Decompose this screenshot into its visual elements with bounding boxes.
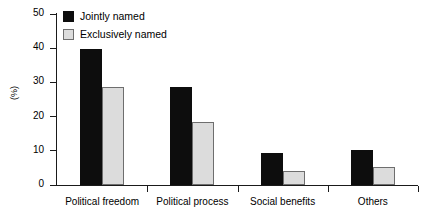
bar-jointly-2 <box>261 153 283 185</box>
y-axis-tick <box>50 48 56 49</box>
y-axis-tick-label: 0 <box>6 179 44 189</box>
bar-jointly-3 <box>351 150 373 185</box>
y-axis-tick-label: 10 <box>6 145 44 155</box>
x-axis-tick <box>238 186 239 192</box>
y-axis-label: (%) <box>9 85 19 101</box>
bar-jointly-0 <box>80 49 102 185</box>
y-axis-tick-label: 30 <box>6 76 44 86</box>
y-axis-tick <box>50 150 56 151</box>
y-axis-tick-label: 20 <box>6 111 44 121</box>
bar-exclusively-3 <box>373 167 395 185</box>
y-axis-tick <box>50 82 56 83</box>
y-axis-tick <box>50 185 56 186</box>
x-axis-category-label: Others <box>328 196 418 208</box>
y-axis-tick <box>50 116 56 117</box>
legend-label-jointly: Jointly named <box>80 11 145 22</box>
x-axis-tick <box>418 186 419 192</box>
x-axis-category-label: Social benefits <box>238 196 328 208</box>
legend-swatch-icon-exclusively <box>63 29 74 40</box>
x-axis-category-label: Political process <box>147 196 237 208</box>
chart-legend: Jointly named Exclusively named <box>63 9 167 45</box>
bar-exclusively-2 <box>283 171 305 185</box>
bar-jointly-1 <box>170 87 192 185</box>
x-axis-category-label: Political freedom <box>57 196 147 208</box>
x-axis-tick <box>147 186 148 192</box>
y-axis-tick <box>50 14 56 15</box>
legend-item-exclusively-named: Exclusively named <box>63 27 167 42</box>
x-axis-tick <box>328 186 329 192</box>
legend-swatch-icon-jointly <box>63 11 74 22</box>
legend-label-exclusively: Exclusively named <box>80 29 167 40</box>
y-axis-tick-label: 40 <box>6 42 44 52</box>
bar-exclusively-0 <box>102 87 124 185</box>
bar-exclusively-1 <box>192 122 214 185</box>
y-axis-tick-label: 50 <box>6 8 44 18</box>
legend-item-jointly-named: Jointly named <box>63 9 167 24</box>
bar-chart: (%) 01020304050 Political freedomPolitic… <box>0 0 427 222</box>
